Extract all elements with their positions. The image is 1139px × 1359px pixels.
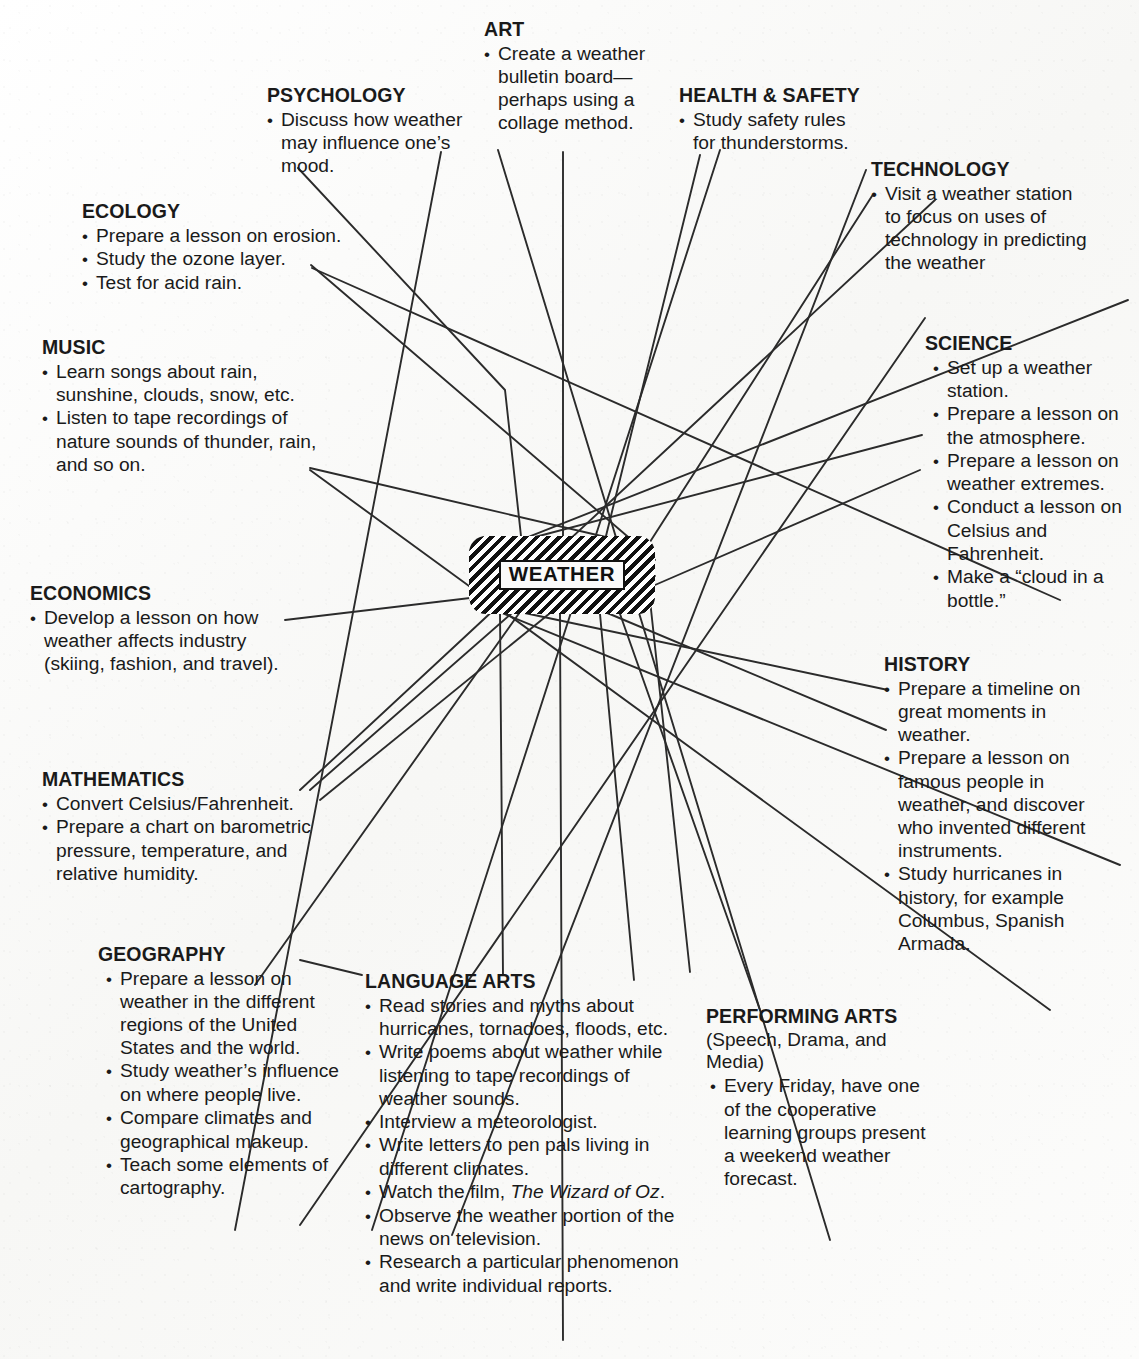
node-title-health-safety: HEALTH & SAFETY: [679, 84, 869, 107]
node-title-music: MUSIC: [42, 336, 327, 359]
connector-history-a: [520, 612, 888, 690]
node-items-psychology: Discuss how weather may influence one’s …: [267, 108, 487, 178]
list-item: Study the ozone layer.: [82, 247, 342, 270]
node-health-safety: HEALTH & SAFETY Study safety rules for t…: [679, 84, 869, 154]
list-item: Read stories and myths about hurricanes,…: [365, 994, 700, 1041]
node-items-science: Set up a weather station. Prepare a less…: [933, 356, 1130, 612]
list-item: Prepare a lesson on erosion.: [82, 224, 342, 247]
connector-technology: [648, 196, 872, 545]
list-item: Make a “cloud in a bottle.”: [933, 565, 1130, 612]
list-item: Create a weather bulletin board—perhaps …: [484, 42, 669, 135]
node-items-ecology: Prepare a lesson on erosion. Study the o…: [82, 224, 342, 294]
node-title-economics: ECONOMICS: [30, 582, 310, 605]
node-ecology: ECOLOGY Prepare a lesson on erosion. Stu…: [82, 200, 342, 294]
node-title-history: HISTORY: [884, 653, 1099, 676]
node-title-psychology: PSYCHOLOGY: [267, 84, 487, 107]
connector-language-arts-c: [600, 614, 634, 980]
list-item: Compare climates and geographical makeup…: [106, 1106, 343, 1153]
connector-ecology: [311, 265, 655, 560]
node-items-geography: Prepare a lesson on weather in the diffe…: [106, 967, 343, 1200]
list-item: Set up a weather station.: [933, 356, 1130, 403]
list-item: Every Friday, have one of the cooperativ…: [710, 1074, 931, 1190]
list-item: Watch the film, The Wizard of Oz.: [365, 1180, 700, 1203]
list-item: Listen to tape recordings of nature soun…: [42, 406, 327, 476]
node-items-mathematics: Convert Celsius/Fahrenheit. Prepare a ch…: [42, 792, 342, 885]
list-item: Write poems about weather while listenin…: [365, 1040, 700, 1110]
list-item: Research a particular phenomenon and wri…: [365, 1250, 700, 1297]
list-item: Develop a lesson on how weather affects …: [30, 606, 310, 676]
node-items-music: Learn songs about rain, sunshine, clouds…: [42, 360, 327, 476]
node-economics: ECONOMICS Develop a lesson on how weathe…: [30, 582, 310, 675]
list-item: Conduct a lesson on Celsius and Fahrenhe…: [933, 495, 1130, 565]
node-items-economics: Develop a lesson on how weather affects …: [30, 606, 310, 676]
list-item: Convert Celsius/Fahrenheit.: [42, 792, 342, 815]
list-item: Prepare a chart on barometric pressure, …: [42, 815, 342, 885]
list-item: Test for acid rain.: [82, 271, 342, 294]
node-performing-arts: PERFORMING ARTS (Speech, Drama, and Medi…: [706, 1005, 931, 1190]
list-item: Prepare a timeline on great moments in w…: [884, 677, 1099, 747]
connector-cross-10: [300, 200, 935, 790]
node-items-technology: Visit a weather station to focus on uses…: [871, 182, 1093, 275]
node-title-performing-arts: PERFORMING ARTS: [706, 1005, 931, 1028]
list-item: Visit a weather station to focus on uses…: [871, 182, 1093, 275]
node-title-language-arts: LANGUAGE ARTS: [365, 970, 700, 993]
node-title-mathematics: MATHEMATICS: [42, 768, 342, 791]
node-items-art: Create a weather bulletin board—perhaps …: [484, 42, 669, 135]
center-node-weather[interactable]: WEATHER: [469, 536, 655, 614]
connector-language-arts-a: [500, 612, 503, 975]
list-item: Study safety rules for thunderstorms.: [679, 108, 869, 155]
node-history: HISTORY Prepare a timeline on great mome…: [884, 653, 1099, 955]
connector-performing-arts: [620, 614, 760, 1010]
list-item: Prepare a lesson on weather extremes.: [933, 449, 1130, 496]
node-title-science: SCIENCE: [925, 332, 1130, 355]
list-item: Teach some elements of cartography.: [106, 1153, 343, 1200]
list-item: Observe the weather portion of the news …: [365, 1204, 700, 1251]
node-items-performing-arts: Every Friday, have one of the cooperativ…: [710, 1074, 931, 1190]
list-item: Prepare a lesson on the atmosphere.: [933, 402, 1130, 449]
list-item: Discuss how weather may influence one’s …: [267, 108, 487, 178]
node-mathematics: MATHEMATICS Convert Celsius/Fahrenheit. …: [42, 768, 342, 885]
node-geography: GEOGRAPHY Prepare a lesson on weather in…: [98, 943, 343, 1199]
node-science: SCIENCE Set up a weather station. Prepar…: [925, 332, 1130, 612]
node-music: MUSIC Learn songs about rain, sunshine, …: [42, 336, 327, 476]
node-psychology: PSYCHOLOGY Discuss how weather may influ…: [267, 84, 487, 177]
node-title-art: ART: [484, 18, 669, 41]
connector-science-a: [520, 435, 922, 541]
node-title-ecology: ECOLOGY: [82, 200, 342, 223]
connector-language-arts-d: [650, 600, 690, 972]
connector-science-b: [655, 470, 920, 585]
node-subhead-performing-arts: (Speech, Drama, and Media): [706, 1029, 931, 1075]
center-node-label: WEATHER: [499, 560, 625, 590]
node-language-arts: LANGUAGE ARTS Read stories and myths abo…: [365, 970, 700, 1297]
list-item: Prepare a lesson on weather in the diffe…: [106, 967, 343, 1060]
node-title-geography: GEOGRAPHY: [98, 943, 343, 966]
node-items-history: Prepare a timeline on great moments in w…: [884, 677, 1099, 956]
node-items-language-arts: Read stories and myths about hurricanes,…: [365, 994, 700, 1297]
list-item: Prepare a lesson on famous people in wea…: [884, 746, 1099, 862]
connector-health-safety: [606, 155, 700, 536]
list-item: Study weather’s influence on where peopl…: [106, 1059, 343, 1106]
node-technology: TECHNOLOGY Visit a weather station to fo…: [871, 158, 1093, 274]
list-item: Interview a meteorologist.: [365, 1110, 700, 1133]
node-title-technology: TECHNOLOGY: [871, 158, 1093, 181]
list-item: Learn songs about rain, sunshine, clouds…: [42, 360, 327, 407]
node-items-health-safety: Study safety rules for thunderstorms.: [679, 108, 869, 155]
list-item: Study hurricanes in history, for example…: [884, 862, 1099, 955]
node-art: ART Create a weather bulletin board—perh…: [484, 18, 669, 134]
list-item: Write letters to pen pals living in diff…: [365, 1133, 700, 1180]
